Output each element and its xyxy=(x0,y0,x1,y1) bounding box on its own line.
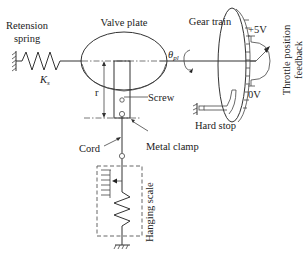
throttle-feedback-label-line2: feedback xyxy=(293,40,304,79)
scale-hook xyxy=(119,153,124,158)
zero-v-label: 0V xyxy=(248,89,261,100)
metal-clamp xyxy=(119,111,124,116)
hanging-scale-label: Hanging scale xyxy=(144,182,155,242)
angle-label: θpl xyxy=(168,49,179,62)
retension-label-line1: Retension xyxy=(6,20,49,31)
rotation-arrowhead xyxy=(189,68,193,73)
throttle-feedback-label-line1: Throttle position xyxy=(281,24,292,95)
spring-constant-label: Ks xyxy=(39,74,50,87)
potentiometer xyxy=(248,36,270,86)
cord-label: Cord xyxy=(79,143,101,154)
hard-stop-label: Hard stop xyxy=(195,120,236,131)
valve-plate-label: Valve plate xyxy=(101,17,148,28)
radius-label: r xyxy=(95,87,99,98)
plus-5v-label: +5V xyxy=(248,24,267,35)
metal-clamp-leader xyxy=(132,121,148,131)
throttle-spring-diagram: Retension spring Ks Valve plate Screw r … xyxy=(0,0,308,258)
retension-spring xyxy=(16,52,82,70)
retension-label-line2: spring xyxy=(14,33,41,44)
screw-label: Screw xyxy=(148,92,175,103)
hard-stop xyxy=(193,90,236,115)
screw xyxy=(120,97,148,102)
cord-arrow xyxy=(116,137,121,141)
metal-clamp-label: Metal clamp xyxy=(146,141,199,152)
left-ground-anchor xyxy=(12,51,16,71)
radius-dimension xyxy=(102,61,106,118)
rotation-arrow xyxy=(184,50,191,70)
gear-train-label: Gear train xyxy=(189,16,232,27)
